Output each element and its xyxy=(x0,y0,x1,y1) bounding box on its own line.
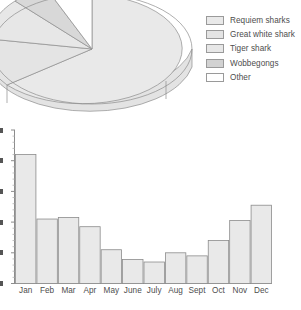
legend-item-wobbegongs: Wobbegongs xyxy=(206,56,301,70)
bar-chart: JanFebMarAprMayJuneJulyAugSeptOctNovDec xyxy=(0,126,301,310)
legend-item-requiem-sharks: Requiem sharks xyxy=(206,13,301,27)
x-axis-label-july: July xyxy=(144,285,165,296)
bar-series xyxy=(16,155,272,284)
x-axis-label-feb: Feb xyxy=(36,285,57,296)
pie-chart-legend: Requiem sharks Great white shark Tiger s… xyxy=(206,13,301,85)
legend-swatch-tiger-shark xyxy=(206,44,224,53)
legend-item-great-white-shark: Great white shark xyxy=(206,27,301,41)
bar-sept[interactable] xyxy=(187,256,207,284)
legend-label-requiem-sharks: Requiem sharks xyxy=(230,16,290,25)
bar-chart-svg xyxy=(0,126,301,310)
bar-apr[interactable] xyxy=(80,227,100,284)
legend-item-other: Other xyxy=(206,71,301,85)
x-axis-label-mar: Mar xyxy=(58,285,79,296)
x-axis-label-sept: Sept xyxy=(186,285,207,296)
pie-chart xyxy=(0,0,200,128)
legend-swatch-requiem-sharks xyxy=(206,16,224,25)
legend-label-wobbegongs: Wobbegongs xyxy=(230,59,279,68)
x-axis-label-jan: Jan xyxy=(15,285,36,296)
y-axis-tick-label-clipped xyxy=(0,128,3,133)
bar-july[interactable] xyxy=(144,262,164,283)
y-axis-tick-label-clipped xyxy=(0,189,3,194)
legend-label-great-white-shark: Great white shark xyxy=(230,30,295,39)
bar-nov[interactable] xyxy=(230,221,250,284)
bar-dec[interactable] xyxy=(251,205,271,283)
bar-mar[interactable] xyxy=(58,217,78,283)
legend-label-tiger-shark: Tiger shark xyxy=(230,44,271,53)
legend-label-other: Other xyxy=(230,73,251,82)
legend-swatch-other xyxy=(206,73,224,82)
pie-chart-svg xyxy=(0,0,200,128)
bar-aug[interactable] xyxy=(165,253,185,284)
x-axis-label-june: June xyxy=(122,285,143,296)
bar-feb[interactable] xyxy=(37,219,57,283)
y-axis-tick-label-clipped xyxy=(0,220,3,225)
bar-oct[interactable] xyxy=(208,241,228,284)
x-axis-label-nov: Nov xyxy=(229,285,250,296)
x-axis-label-aug: Aug xyxy=(165,285,186,296)
x-axis-label-dec: Dec xyxy=(251,285,272,296)
bar-june[interactable] xyxy=(123,260,143,284)
bar-jan[interactable] xyxy=(16,155,36,284)
x-axis-tick-labels: JanFebMarAprMayJuneJulyAugSeptOctNovDec xyxy=(0,285,301,301)
x-axis-label-oct: Oct xyxy=(208,285,229,296)
y-axis-tick-label-clipped xyxy=(0,250,3,255)
legend-swatch-wobbegongs xyxy=(206,59,224,68)
legend-swatch-great-white-shark xyxy=(206,30,224,39)
legend-item-tiger-shark: Tiger shark xyxy=(206,42,301,56)
x-axis-label-may: May xyxy=(101,285,122,296)
x-axis-label-apr: Apr xyxy=(79,285,100,296)
figure-canvas: Requiem sharks Great white shark Tiger s… xyxy=(0,0,301,310)
y-axis-tick-label-clipped xyxy=(0,158,3,163)
bar-may[interactable] xyxy=(101,250,121,284)
